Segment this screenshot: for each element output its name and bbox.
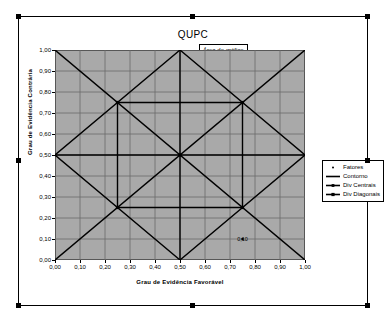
resize-handle-middle-left[interactable] <box>16 158 21 163</box>
y-axis-tick-label: 0,90 <box>39 68 51 74</box>
legend-item-label: Contorno <box>343 172 368 181</box>
x-axis-tick-mark <box>280 260 281 263</box>
x-axis-tick-mark <box>205 260 206 263</box>
resize-handle-top-left[interactable] <box>16 14 21 19</box>
chart-object[interactable]: QUPC Área do gráfico Grau de Evidência C… <box>18 16 368 306</box>
x-axis-tick-label: 0,40 <box>149 264 161 270</box>
x-axis-tick-mark <box>180 260 181 263</box>
x-axis-tick-label: 0,70 <box>224 264 236 270</box>
resize-handle-top-right[interactable] <box>365 14 370 19</box>
y-axis-tick-mark <box>52 113 55 114</box>
data-point-label: 0,10 <box>237 236 248 242</box>
y-axis-tick-label: 0,40 <box>39 173 51 179</box>
y-axis-tick-label: 0,50 <box>39 152 51 158</box>
x-axis-tick-mark <box>130 260 131 263</box>
y-axis-tick-mark <box>52 197 55 198</box>
resize-handle-bottom-center[interactable] <box>190 303 195 308</box>
y-axis-tick-label: 0,30 <box>39 194 51 200</box>
legend-item-div-centrais[interactable]: Div Centrais <box>325 181 380 190</box>
y-axis-tick-mark <box>52 176 55 177</box>
y-axis-tick-label: 0,80 <box>39 89 51 95</box>
y-axis-tick-label: 0,20 <box>39 215 51 221</box>
x-axis-tick-label: 0,90 <box>274 264 286 270</box>
resize-handle-middle-right[interactable] <box>365 158 370 163</box>
x-axis-tick-label: 0,80 <box>249 264 261 270</box>
legend-item-label: Fatores <box>343 163 363 172</box>
legend-item-fatores[interactable]: Fatores <box>325 163 380 172</box>
x-axis-title: Grau de Evidência Favorável <box>55 279 305 285</box>
x-axis-tick-label: 0,00 <box>49 264 61 270</box>
y-axis-tick-label: 1,00 <box>39 47 51 53</box>
x-axis-tick-mark <box>105 260 106 263</box>
x-axis-tick-label: 0,10 <box>74 264 86 270</box>
resize-handle-top-center[interactable] <box>190 14 195 19</box>
y-axis-tick-label: 0,10 <box>39 236 51 242</box>
y-axis-title: Grau de Evidência Contrária <box>27 69 33 155</box>
x-axis-tick-mark <box>230 260 231 263</box>
plot-wrap: 0,000,100,200,300,400,500,600,700,800,90… <box>55 50 305 260</box>
series-layer <box>55 50 305 260</box>
chart-title: QUPC <box>19 29 367 40</box>
x-axis-tick-mark <box>80 260 81 263</box>
x-axis-tick-mark <box>255 260 256 263</box>
line-swatch-icon <box>325 172 341 181</box>
y-axis-tick-mark <box>52 134 55 135</box>
x-axis-tick-label: 0,60 <box>199 264 211 270</box>
x-axis-tick-label: 0,50 <box>174 264 186 270</box>
legend-item-label: Div Centrais <box>343 181 376 190</box>
x-axis-tick-mark <box>55 260 56 263</box>
chart-legend[interactable]: FatoresContornoDiv CentraisDiv Diagonais <box>322 160 384 202</box>
y-axis-tick-label: 0,60 <box>39 131 51 137</box>
plot-svg <box>55 50 305 260</box>
y-axis-tick-mark <box>52 92 55 93</box>
y-axis-tick-label: 0,70 <box>39 110 51 116</box>
resize-handle-bottom-left[interactable] <box>16 303 21 308</box>
x-axis-tick-mark <box>155 260 156 263</box>
resize-handle-bottom-right[interactable] <box>365 303 370 308</box>
x-axis-tick-label: 1,00 <box>299 264 311 270</box>
line-marker-swatch-icon <box>325 190 341 199</box>
y-axis-tick-mark <box>52 71 55 72</box>
legend-item-label: Div Diagonais <box>343 190 380 199</box>
legend-item-contorno[interactable]: Contorno <box>325 172 380 181</box>
line-dot-swatch-icon <box>325 181 341 190</box>
y-axis-tick-mark <box>52 155 55 156</box>
y-axis-tick-mark <box>52 50 55 51</box>
y-axis-tick-mark <box>52 218 55 219</box>
x-axis-tick-mark <box>305 260 306 263</box>
dot-swatch-icon <box>325 163 341 172</box>
y-axis-tick-mark <box>52 239 55 240</box>
x-axis-tick-label: 0,30 <box>124 264 136 270</box>
x-axis-tick-label: 0,20 <box>99 264 111 270</box>
y-axis-tick-label: 0,00 <box>39 257 51 263</box>
legend-item-div-diagonais[interactable]: Div Diagonais <box>325 190 380 199</box>
